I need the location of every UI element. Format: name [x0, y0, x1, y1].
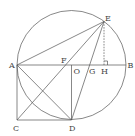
label-a: A: [8, 61, 15, 70]
label-b: B: [128, 61, 134, 70]
label-o: O: [74, 67, 81, 76]
label-f: F: [61, 56, 67, 65]
label-h: H: [101, 67, 108, 76]
label-c: C: [13, 124, 19, 133]
right-angle-mark-h: [104, 61, 108, 65]
geometry-diagram: A B E F O G H C D: [0, 0, 135, 136]
label-e: E: [105, 14, 111, 23]
segment-ad: [17, 65, 72, 120]
label-g: G: [89, 67, 95, 76]
label-d: D: [69, 124, 75, 133]
